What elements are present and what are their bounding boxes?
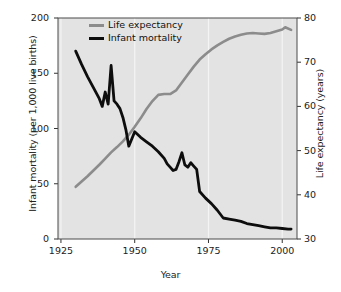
y-axis-left-title: Infant mortality (per 1,000 live births) — [27, 24, 38, 224]
x-tick-label: 1925 — [41, 245, 81, 256]
legend-swatch-infant-mortality — [89, 37, 104, 40]
y-right-tick-label: 80 — [304, 12, 334, 23]
chart-figure: 200 150 100 50 0 80 70 60 50 40 30 1925 … — [0, 0, 341, 292]
legend-swatch-life-expectancy — [89, 24, 104, 27]
y-left-tick-label: 200 — [19, 12, 49, 23]
y-left-tick-label: 0 — [19, 233, 49, 244]
plot-background — [58, 18, 297, 239]
x-tick-label: 1975 — [188, 245, 228, 256]
legend-label-infant-mortality: Infant mortality — [108, 32, 182, 43]
x-tick-label: 1950 — [115, 245, 155, 256]
x-tick-label: 2000 — [262, 245, 302, 256]
x-axis-title: Year — [0, 269, 341, 280]
y-axis-right-title: Life expectancy (years) — [314, 24, 325, 224]
y-right-tick-label: 30 — [304, 233, 334, 244]
legend-label-life-expectancy: Life expectancy — [108, 19, 183, 30]
